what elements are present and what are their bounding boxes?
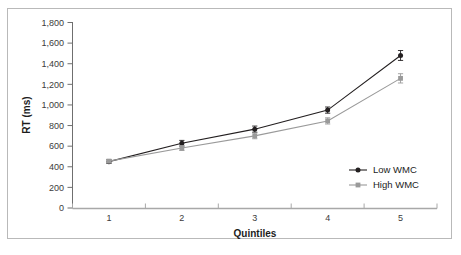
chart-legend: Low WMCHigh WMC xyxy=(349,164,419,190)
y-axis-title: RT (ms) xyxy=(21,96,32,133)
data-point-marker xyxy=(325,108,330,113)
y-tick-label: 200 xyxy=(49,183,64,193)
data-point-marker xyxy=(107,159,112,164)
legend-label: High WMC xyxy=(373,179,419,190)
y-tick-label: 0 xyxy=(59,203,64,213)
data-point-marker xyxy=(179,146,184,151)
y-tick-label: 1,200 xyxy=(41,80,64,90)
data-point-marker xyxy=(398,76,403,81)
y-tick-label: 1,800 xyxy=(41,18,64,28)
x-axis-ticks: 12345 xyxy=(73,204,438,224)
y-tick-label: 600 xyxy=(49,141,64,151)
series-line xyxy=(109,55,401,161)
legend-marker xyxy=(356,183,361,188)
series-low-wmc xyxy=(106,51,403,165)
x-tick-label: 3 xyxy=(252,213,257,223)
y-tick-label: 800 xyxy=(49,121,64,131)
legend-label: Low WMC xyxy=(373,164,417,175)
data-point-marker xyxy=(325,119,330,124)
y-tick-label: 1,600 xyxy=(41,38,64,48)
x-tick-label: 5 xyxy=(398,213,403,223)
x-tick-label: 2 xyxy=(179,213,184,223)
y-tick-label: 400 xyxy=(49,162,64,172)
x-tick-label: 1 xyxy=(106,213,111,223)
legend-item-low-wmc: Low WMC xyxy=(349,164,417,175)
line-chart: 02004006008001,0001,2001,4001,6001,800 1… xyxy=(0,0,461,255)
y-axis-ticks: 02004006008001,0001,2001,4001,6001,800 xyxy=(41,18,72,214)
legend-item-high-wmc: High WMC xyxy=(349,179,419,190)
legend-marker xyxy=(356,168,361,173)
data-series-layer xyxy=(106,51,403,165)
y-tick-label: 1,400 xyxy=(41,59,64,69)
data-point-marker xyxy=(252,133,257,138)
data-point-marker xyxy=(252,127,257,132)
data-point-marker xyxy=(179,141,184,146)
y-tick-label: 1,000 xyxy=(41,100,64,110)
x-tick-label: 4 xyxy=(325,213,330,223)
figure-root: 02004006008001,0001,2001,4001,6001,800 1… xyxy=(0,0,461,255)
data-point-marker xyxy=(398,53,403,58)
x-axis-title: Quintiles xyxy=(234,228,277,239)
series-line xyxy=(109,78,401,161)
